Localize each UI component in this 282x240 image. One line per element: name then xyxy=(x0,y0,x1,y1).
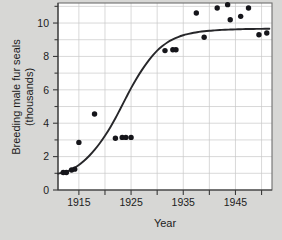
y-tick-label: 8 xyxy=(43,50,49,62)
y-tick-label: 4 xyxy=(43,117,49,129)
x-tick-label: 1915 xyxy=(67,196,91,208)
data-point xyxy=(264,30,269,35)
data-point xyxy=(194,10,199,15)
data-point xyxy=(72,166,77,171)
data-point xyxy=(215,5,220,10)
data-point xyxy=(123,135,128,140)
plot-area-background xyxy=(58,3,272,190)
x-tick-label: 1945 xyxy=(224,196,248,208)
x-axis-title: Year xyxy=(154,217,177,229)
x-tick-label: 1925 xyxy=(119,196,143,208)
data-point xyxy=(225,2,230,7)
data-point xyxy=(76,140,81,145)
data-point xyxy=(238,14,243,19)
x-tick-label: 1935 xyxy=(172,196,196,208)
figure-container: 1915192519351945 0246810 Year Breeding m… xyxy=(0,0,282,240)
data-point xyxy=(256,32,261,37)
data-point xyxy=(173,47,178,52)
data-point xyxy=(113,136,118,141)
data-point xyxy=(246,5,251,10)
data-point xyxy=(162,48,167,53)
y-tick-label: 10 xyxy=(37,17,49,29)
y-axis-title-line1: Breeding male fur seals xyxy=(10,39,22,155)
seal-population-scatter-chart: 1915192519351945 0246810 Year Breeding m… xyxy=(0,0,282,240)
y-axis-title-line2: (thousands) xyxy=(23,68,35,126)
data-point xyxy=(92,111,97,116)
data-point xyxy=(201,35,206,40)
data-point xyxy=(228,17,233,22)
y-tick-label: 6 xyxy=(43,84,49,96)
data-point xyxy=(128,135,133,140)
data-point xyxy=(64,170,69,175)
y-tick-label: 2 xyxy=(43,150,49,162)
y-tick-label: 0 xyxy=(43,184,49,196)
